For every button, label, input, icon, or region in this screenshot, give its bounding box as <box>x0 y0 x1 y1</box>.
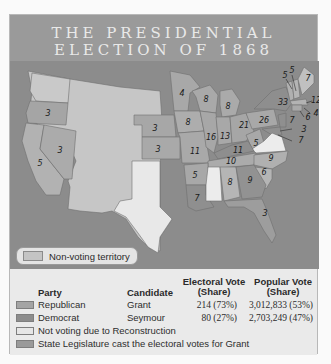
state-florida <box>224 199 276 243</box>
non-voting-territory-label: Non-voting territory <box>49 251 130 262</box>
popular-vote-value: 2,703,249 (47%) <box>249 312 313 324</box>
party-name: Republican <box>38 299 86 311</box>
legend-row-democrat: Democrat Seymour 80 (27%) 2,703,249 (47%… <box>10 312 317 324</box>
svg-text:4: 4 <box>313 109 318 118</box>
svg-text:3: 3 <box>45 109 50 118</box>
svg-text:8: 8 <box>227 178 232 187</box>
state-legislature-swatch <box>16 340 34 348</box>
not-voting-swatch <box>16 327 34 335</box>
state-connecticut <box>292 105 302 111</box>
electoral-vote-value: 80 (27%) <box>201 312 237 324</box>
svg-text:3: 3 <box>262 209 267 218</box>
svg-text:9: 9 <box>247 176 252 185</box>
svg-text:3: 3 <box>57 146 62 155</box>
svg-text:3: 3 <box>155 145 160 154</box>
svg-text:11: 11 <box>233 146 243 155</box>
state-legislature-label: State Legislature cast the electoral vot… <box>38 338 249 350</box>
map-title-line-2: ELECTION OF 1868 <box>10 42 317 58</box>
svg-text:8: 8 <box>225 102 230 111</box>
header-popular-vote: Popular Vote (Share) <box>250 277 316 296</box>
header-popular-line2: (Share) <box>250 287 316 297</box>
not-voting-label: Not voting due to Reconstruction <box>38 325 176 337</box>
svg-text:7: 7 <box>289 116 295 125</box>
non-voting-territory-legend: Non-voting territory <box>16 247 138 265</box>
svg-text:6: 6 <box>261 168 266 177</box>
header-candidate: Candidate <box>127 288 173 298</box>
popular-vote-value: 3,012,833 (53%) <box>249 299 313 311</box>
svg-text:8: 8 <box>203 95 208 104</box>
svg-text:6: 6 <box>305 113 310 122</box>
legend-row-not-voting: Not voting due to Reconstruction <box>10 325 317 337</box>
state-kansas <box>142 137 180 159</box>
map-title-line-1: THE PRESIDENTIAL <box>10 25 317 41</box>
election-map-panel: THE PRESIDENTIAL ELECTION OF 1868 <box>9 14 318 354</box>
header-electoral-line2: (Share) <box>178 287 250 297</box>
state-mississippi <box>206 167 222 201</box>
candidate-name: Grant <box>127 299 151 311</box>
svg-text:16: 16 <box>206 133 216 142</box>
svg-text:5: 5 <box>37 159 42 168</box>
svg-text:13: 13 <box>220 132 230 141</box>
party-name: Democrat <box>38 312 79 324</box>
us-map: 3 5 3 4 3 3 8 11 8 8 16 13 21 26 33 5 5 … <box>10 61 319 269</box>
republican-swatch <box>16 301 34 309</box>
democrat-swatch <box>16 314 34 322</box>
svg-text:5: 5 <box>192 171 197 180</box>
header-electoral-vote: Electoral Vote (Share) <box>178 277 250 296</box>
candidate-name: Seymour <box>127 312 165 324</box>
non-voting-territory-swatch <box>23 251 43 261</box>
electoral-vote-value: 214 (73%) <box>197 299 237 311</box>
svg-text:5: 5 <box>282 71 287 80</box>
svg-text:3: 3 <box>152 124 157 133</box>
svg-text:4: 4 <box>179 89 184 98</box>
svg-text:7: 7 <box>298 136 304 145</box>
svg-text:9: 9 <box>268 154 273 163</box>
svg-text:11: 11 <box>190 147 200 156</box>
svg-text:33: 33 <box>278 98 288 107</box>
legend-row-state-legislature: State Legislature cast the electoral vot… <box>10 338 317 350</box>
washington-territory <box>30 73 70 103</box>
state-new-jersey <box>278 113 286 127</box>
results-legend: Party Candidate Electoral Vote (Share) P… <box>10 269 317 355</box>
svg-text:5: 5 <box>253 139 258 148</box>
svg-text:21: 21 <box>239 121 249 130</box>
us-map-graphic: 3 5 3 4 3 3 8 11 8 8 16 13 21 26 33 5 5 … <box>10 61 319 269</box>
svg-text:3: 3 <box>301 125 306 134</box>
svg-text:10: 10 <box>226 157 236 166</box>
title-band: THE PRESIDENTIAL ELECTION OF 1868 <box>10 15 317 61</box>
svg-text:5: 5 <box>289 66 294 75</box>
svg-text:12: 12 <box>311 96 319 105</box>
header-party: Party <box>38 288 62 298</box>
legend-row-republican: Republican Grant 214 (73%) 3,012,833 (53… <box>10 299 317 311</box>
svg-text:8: 8 <box>185 118 190 127</box>
svg-text:26: 26 <box>259 116 269 125</box>
